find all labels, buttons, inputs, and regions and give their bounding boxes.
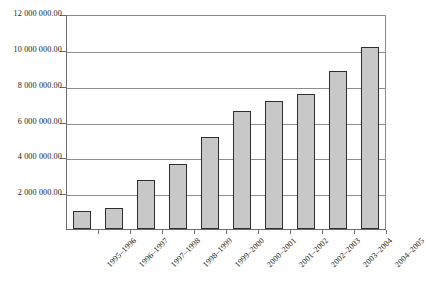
y-axis-label: 2 000 000.00 bbox=[18, 189, 62, 197]
y-axis-label: 10 000 000.00 bbox=[14, 46, 62, 54]
x-axis-tick bbox=[98, 230, 99, 234]
y-axis-label: 4 000 000.00 bbox=[18, 153, 62, 161]
y-axis-label: 12 000 000.00 bbox=[14, 10, 62, 18]
x-axis-tick bbox=[290, 230, 291, 234]
x-axis-tick bbox=[130, 230, 131, 234]
bar bbox=[201, 137, 219, 229]
bar bbox=[297, 94, 315, 229]
x-axis-label: 1997–1998 bbox=[169, 236, 202, 269]
x-axis-tick bbox=[162, 230, 163, 234]
x-axis-tick bbox=[354, 230, 355, 234]
x-axis-label: 1995–1996 bbox=[105, 236, 138, 269]
x-axis-tick bbox=[322, 230, 323, 234]
x-axis-tick bbox=[386, 230, 387, 234]
bar bbox=[73, 211, 91, 229]
bar bbox=[265, 101, 283, 229]
bar-series bbox=[67, 16, 385, 229]
x-axis-tick bbox=[226, 230, 227, 234]
x-axis-label: 1998–1999 bbox=[201, 236, 234, 269]
x-axis-label: 2003–2004 bbox=[361, 236, 394, 269]
y-axis-label: 8 000 000.00 bbox=[18, 82, 62, 90]
bar bbox=[233, 111, 251, 229]
bar bbox=[361, 47, 379, 229]
x-axis-label: 1996–1997 bbox=[137, 236, 170, 269]
x-axis-label: 2004–2005 bbox=[393, 236, 426, 269]
bar bbox=[329, 71, 347, 229]
bar bbox=[169, 164, 187, 229]
x-axis-tick bbox=[194, 230, 195, 234]
bar bbox=[137, 180, 155, 229]
x-axis-label: 2000–2001 bbox=[265, 236, 298, 269]
y-axis-label: 6 000 000.00 bbox=[18, 118, 62, 126]
bar bbox=[105, 208, 123, 229]
x-axis-label: 2002–2003 bbox=[329, 236, 362, 269]
x-axis-tick bbox=[258, 230, 259, 234]
x-axis-label: 2001–2002 bbox=[297, 236, 330, 269]
x-axis-label: 1999–2000 bbox=[233, 236, 266, 269]
